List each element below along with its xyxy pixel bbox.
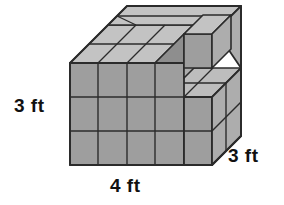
dimension-label-width: 4 ft [110, 176, 141, 195]
dimension-label-height: 3 ft [14, 96, 45, 115]
cube-stack-geometry [70, 6, 241, 165]
dimension-label-depth: 3 ft [228, 146, 259, 165]
upper-right-front-face [184, 34, 212, 68]
figure-stage: 3 ft 4 ft 3 ft [0, 0, 284, 205]
